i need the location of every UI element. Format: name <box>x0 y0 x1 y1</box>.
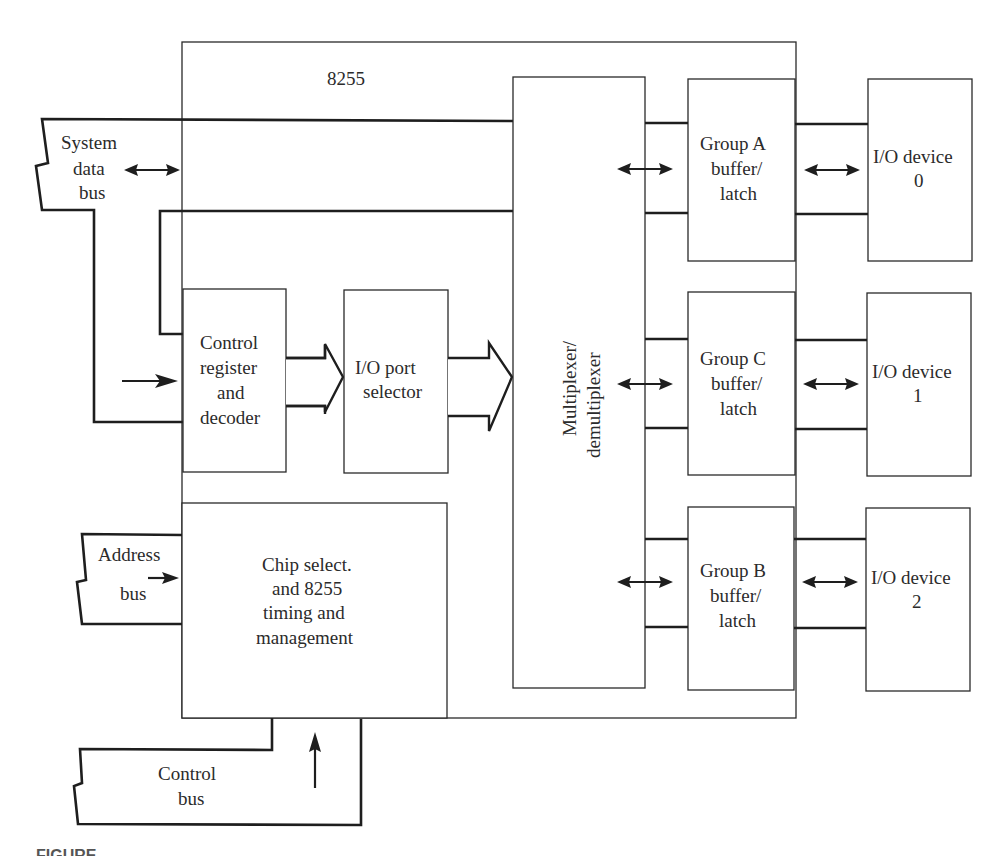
chip-8255-label: 8255 <box>327 68 365 89</box>
svg-text:management: management <box>256 627 354 648</box>
svg-text:Group C: Group C <box>700 348 766 369</box>
svg-text:1: 1 <box>913 385 923 406</box>
svg-text:I/O device: I/O device <box>872 361 952 382</box>
svg-text:System: System <box>61 132 117 153</box>
svg-text:Control: Control <box>158 763 216 784</box>
address-bus-label: Address bus <box>98 544 160 604</box>
svg-text:buffer/: buffer/ <box>711 158 763 179</box>
svg-text:I/O device: I/O device <box>871 567 951 588</box>
svg-text:data: data <box>73 158 105 179</box>
svg-text:buffer/: buffer/ <box>711 373 763 394</box>
8255-block-diagram: 8255 System data bus Control register an… <box>0 0 1006 856</box>
group-b-device-2-arrow <box>802 576 858 588</box>
svg-text:selector: selector <box>363 381 423 402</box>
svg-text:Multiplexer/: Multiplexer/ <box>559 340 580 436</box>
svg-text:demultiplexer: demultiplexer <box>583 352 604 458</box>
svg-text:bus: bus <box>120 583 146 604</box>
svg-text:0: 0 <box>914 170 924 191</box>
svg-text:timing and: timing and <box>263 602 345 623</box>
svg-text:2: 2 <box>912 591 922 612</box>
group-a-device-0-arrow <box>804 164 860 176</box>
svg-text:register: register <box>200 357 258 378</box>
svg-text:latch: latch <box>720 183 757 204</box>
svg-text:bus: bus <box>178 788 204 809</box>
control-register-box <box>183 289 286 472</box>
svg-text:buffer/: buffer/ <box>710 585 762 606</box>
data-bus-bidirectional-arrow <box>124 164 180 176</box>
svg-text:bus: bus <box>79 182 105 203</box>
svg-text:latch: latch <box>720 398 757 419</box>
system-data-bus-label: System data bus <box>61 132 117 203</box>
group-c-device-1-arrow <box>803 378 859 390</box>
svg-text:Group B: Group B <box>700 560 766 581</box>
svg-text:Group A: Group A <box>700 133 766 154</box>
svg-text:Control: Control <box>200 332 258 353</box>
svg-text:Address: Address <box>98 544 160 565</box>
svg-text:Chip select.: Chip select. <box>262 554 352 575</box>
svg-text:decoder: decoder <box>200 407 261 428</box>
svg-text:latch: latch <box>719 610 756 631</box>
control-bus-label: Control bus <box>158 763 216 809</box>
svg-text:and 8255: and 8255 <box>272 578 342 599</box>
svg-text:I/O device: I/O device <box>873 146 953 167</box>
figure-caption: FIGURE <box>36 848 536 856</box>
svg-text:I/O port: I/O port <box>355 357 416 378</box>
svg-text:and: and <box>217 382 245 403</box>
control-bus <box>74 718 361 825</box>
